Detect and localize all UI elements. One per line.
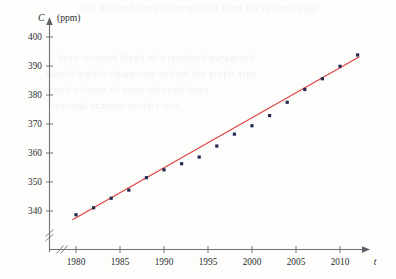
y-axis-arrow-icon	[46, 17, 52, 25]
y-tick-label: 400	[28, 32, 42, 42]
data-point	[145, 176, 148, 179]
y-tick-label: 360	[28, 148, 42, 158]
x-tick-label: 2005	[287, 257, 306, 267]
y-tick-label: 350	[28, 177, 42, 187]
y-tick-label: 340	[28, 206, 42, 216]
data-point	[215, 144, 218, 147]
x-tick-label: 1980	[67, 257, 86, 267]
y-tick-label: 370	[28, 119, 42, 129]
y-axis	[46, 17, 54, 252]
data-point	[198, 155, 201, 158]
data-point	[338, 65, 341, 68]
data-point	[233, 133, 236, 136]
x-axis-variable-label: t	[374, 256, 377, 267]
data-point	[127, 189, 130, 192]
data-point	[250, 124, 253, 127]
data-point	[356, 53, 359, 56]
data-point	[321, 77, 324, 80]
data-point	[162, 168, 165, 171]
y-axis-units-label: (ppm)	[57, 12, 80, 24]
data-point	[180, 162, 183, 165]
y-axis-variable-label: C	[38, 12, 45, 23]
data-point	[74, 213, 77, 216]
data-point-group	[74, 53, 359, 216]
x-axis-arrow-icon	[362, 246, 370, 252]
regression-trend-line	[72, 57, 359, 220]
x-tick-label: 1985	[111, 257, 130, 267]
data-point	[286, 101, 289, 104]
x-axis	[50, 246, 371, 254]
y-tick-label: 380	[28, 90, 42, 100]
data-point	[92, 206, 95, 209]
x-tick-label: 2000	[243, 257, 262, 267]
y-tick-label: 390	[28, 61, 42, 71]
data-point	[110, 197, 113, 200]
scatter-plot: 400 390 380 370 360 350	[0, 0, 396, 279]
x-tick-label: 2010	[331, 257, 350, 267]
x-tick-label: 1990	[155, 257, 174, 267]
data-point	[268, 114, 271, 117]
figure-canvas: and ghosted show-through text from the r…	[0, 0, 396, 279]
data-point	[303, 88, 306, 91]
x-tick-label: 1995	[199, 257, 218, 267]
